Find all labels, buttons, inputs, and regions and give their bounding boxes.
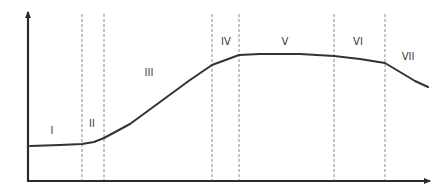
growth-curve	[30, 54, 428, 146]
chart-canvas: IIIIIIIVVVIVII	[0, 0, 448, 190]
phase-diagram: IIIIIIIVVVIVII	[0, 0, 448, 190]
phase-label-ii: II	[89, 118, 95, 129]
phase-label-v: V	[282, 36, 289, 47]
phase-label-vi: VI	[353, 36, 363, 47]
phase-label-iv: IV	[221, 36, 231, 47]
phase-labels: IIIIIIIVVVIVII	[51, 36, 415, 136]
phase-label-vii: VII	[402, 51, 415, 62]
phase-boundary-lines	[82, 14, 385, 181]
phase-label-iii: III	[145, 67, 154, 78]
phase-label-i: I	[51, 125, 54, 136]
